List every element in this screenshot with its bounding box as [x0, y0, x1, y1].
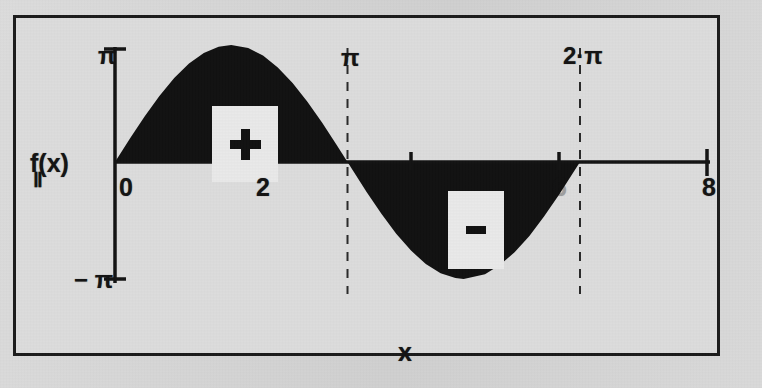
positive-sign-box: +	[212, 106, 278, 182]
x-tick-label-0: 0	[119, 175, 133, 200]
screenshot-root: + - π − π f(x) Ⅱ 0 2 4 6 8 π 2·π x	[0, 0, 762, 388]
plus-icon-cross	[230, 140, 261, 149]
x-tick-label-6: 6	[553, 175, 567, 200]
two-pi-line-label: 2·π	[563, 44, 603, 68]
y-axis-bottom-label: − π	[74, 268, 113, 292]
y-axis-top-label: π	[98, 44, 116, 68]
y-axis-title-sub: Ⅱ	[33, 170, 41, 190]
x-tick-label-8: 8	[702, 175, 716, 200]
figure-frame: + - π − π f(x) Ⅱ 0 2 4 6 8 π 2·π x	[13, 15, 720, 356]
negative-sign-box: -	[448, 191, 504, 269]
pi-line-label: π	[341, 46, 359, 70]
minus-icon	[466, 226, 486, 234]
x-axis-title: x	[398, 340, 412, 365]
x-tick-label-2: 2	[256, 175, 270, 200]
